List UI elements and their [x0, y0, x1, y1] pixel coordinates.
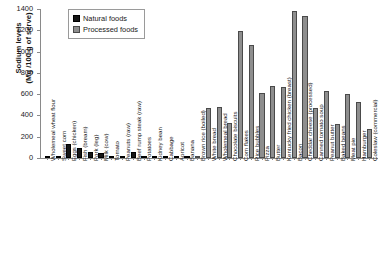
x-tick-mark — [305, 158, 306, 160]
x-tick-mark — [337, 158, 338, 160]
x-tick-label: Butter — [275, 145, 281, 161]
x-tick-mark — [79, 158, 80, 160]
x-tick-label: Potatoes — [146, 137, 152, 161]
x-tick-label: Brown rice (boiled) — [200, 110, 206, 161]
x-tick-mark — [294, 158, 295, 160]
x-tick-label: Fish (bream) — [82, 126, 88, 161]
x-tick-label: Bacon — [297, 144, 303, 161]
y-tick-label: 1000 — [0, 48, 33, 55]
x-tick-mark — [272, 158, 273, 160]
x-tick-mark — [165, 158, 166, 160]
x-tick-mark — [58, 158, 59, 160]
x-tick-label: Meat pie — [350, 138, 356, 161]
x-tick-label: Kentucky fried chicken (breast) — [286, 77, 292, 161]
x-tick-label: Kidney bean — [157, 127, 163, 161]
x-tick-label: Cabbage — [168, 136, 174, 161]
x-tick-label: Banana — [189, 140, 195, 161]
sodium-levels-bar-chart: Sodium levels (Mg /100 g of serve) 02004… — [0, 0, 381, 254]
x-tick-label: Hamburger — [361, 131, 367, 161]
x-tick-mark — [176, 158, 177, 160]
x-tick-mark — [122, 158, 123, 160]
x-tick-label: Tomato — [114, 141, 120, 161]
y-tick-label: 400 — [0, 112, 33, 119]
x-tick-label: Corn flakes — [243, 130, 249, 161]
x-tick-label: Apricot — [179, 142, 185, 161]
x-tick-mark — [229, 158, 230, 160]
x-tick-label: Rice bubbles — [254, 126, 260, 161]
x-tick-mark — [251, 158, 252, 160]
x-tick-mark — [347, 158, 348, 160]
y-tick-label: 200 — [0, 133, 33, 140]
legend-item-processed: Processed foods — [73, 24, 138, 35]
x-tick-label: White bread — [211, 128, 217, 161]
y-tick-label: 800 — [0, 69, 33, 76]
legend-label-natural: Natural foods — [83, 15, 127, 22]
legend-swatch-processed-icon — [73, 26, 80, 33]
x-tick-label: Wholemeal bread — [222, 113, 228, 161]
x-tick-mark — [47, 158, 48, 160]
legend-swatch-natural-icon — [73, 15, 80, 22]
x-tick-label: Pizza — [264, 146, 270, 161]
y-tick-label: 0 — [0, 154, 33, 161]
x-tick-mark — [315, 158, 316, 160]
x-tick-mark — [208, 158, 209, 160]
y-tick-label: 1200 — [0, 27, 33, 34]
x-tick-label: Chocolate biscuits — [232, 112, 238, 161]
x-tick-mark — [187, 158, 188, 160]
x-tick-mark — [111, 158, 112, 160]
x-tick-mark — [358, 158, 359, 160]
x-tick-mark — [154, 158, 155, 160]
x-tick-mark — [326, 158, 327, 160]
x-tick-label: Baked beans — [340, 125, 346, 161]
y-tick-mark — [37, 158, 40, 159]
x-tick-label: Milk (cow) — [103, 134, 109, 161]
legend-label-processed: Processed foods — [83, 26, 138, 33]
x-tick-mark — [197, 158, 198, 160]
x-tick-label: Cheddar cheese (processed) — [307, 82, 313, 161]
x-tick-mark — [101, 158, 102, 160]
x-tick-mark — [219, 158, 220, 160]
x-tick-mark — [68, 158, 69, 160]
legend-item-natural: Natural foods — [73, 13, 138, 24]
x-tick-label: Peanut butter — [329, 124, 335, 161]
x-tick-mark — [262, 158, 263, 160]
y-tick-label: 600 — [0, 90, 33, 97]
x-tick-mark — [240, 158, 241, 160]
legend: Natural foods Processed foods — [68, 9, 145, 39]
x-tick-mark — [283, 158, 284, 160]
x-tick-mark — [90, 158, 91, 160]
x-tick-label: Sweet corn — [61, 131, 67, 161]
y-tick-label: 1400 — [0, 5, 33, 12]
x-tick-label: Coleslaw (commercial) — [372, 99, 378, 161]
x-tick-mark — [144, 158, 145, 160]
x-tick-mark — [133, 158, 134, 160]
x-tick-mark — [369, 158, 370, 160]
x-tick-label: Canned tomato soup — [318, 104, 324, 161]
x-tick-label: Wholemeal wheat flour — [50, 99, 56, 161]
x-tick-label: Pork (leg) — [93, 135, 99, 161]
x-tick-label: Peanuts (raw) — [125, 123, 131, 161]
x-tick-label: Beef rump steak (raw) — [136, 101, 142, 161]
x-tick-label: Eggs (chicken) — [71, 121, 77, 161]
